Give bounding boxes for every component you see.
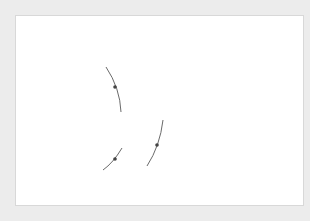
arc-intersection-c [155, 143, 159, 147]
compass-arc-middle [147, 120, 163, 166]
arc-intersection-a [113, 85, 117, 89]
compass-arc-lower [103, 148, 122, 170]
compass-arc-upper [106, 67, 121, 112]
arc-intersection-b [113, 157, 117, 161]
homothety-diagram [0, 0, 310, 221]
diagram-frame [0, 0, 310, 221]
